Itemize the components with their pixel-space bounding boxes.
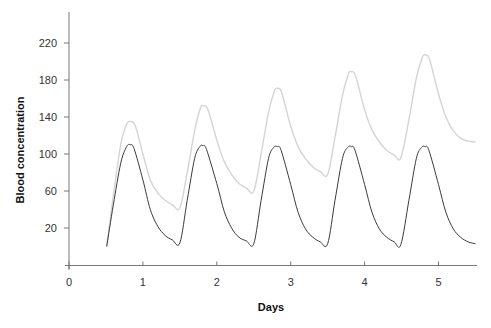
x-tick-label: 4 [362,276,368,288]
y-tick-label: 140 [39,111,57,123]
y-tick-label: 60 [45,185,57,197]
x-tick-label: 5 [435,276,441,288]
x-tick-label: 3 [288,276,294,288]
x-tick-label: 1 [140,276,146,288]
x-axis-title: Days [258,301,284,313]
blood-concentration-chart: 2060100140180220 012345 Days Blood conce… [0,0,491,328]
x-tick-label: 0 [66,276,72,288]
light-series-line [107,55,476,247]
y-axis-title: Blood concentration [14,96,26,203]
y-ticks: 2060100140180220 [39,37,69,234]
dark-series-line [107,144,476,247]
y-tick-label: 20 [45,222,57,234]
data-series [107,55,476,248]
axes: 2060100140180220 012345 [39,12,477,288]
y-tick-label: 100 [39,148,57,160]
y-tick-label: 220 [39,37,57,49]
y-tick-label: 180 [39,74,57,86]
x-tick-label: 2 [214,276,220,288]
